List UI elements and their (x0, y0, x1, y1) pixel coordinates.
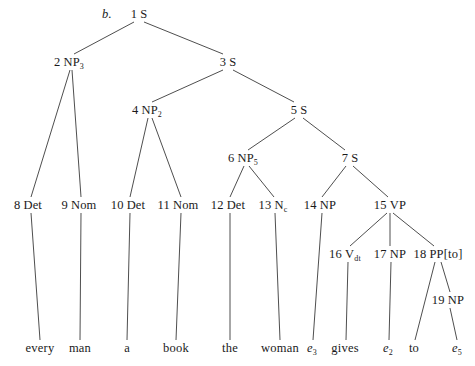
node-index: 11 (157, 198, 172, 212)
tree-terminal-man: man (69, 342, 91, 355)
tree-edge-n5-n6 (248, 118, 295, 150)
tree-edge-n7-n15 (353, 166, 388, 197)
node-subscript: 5 (254, 158, 258, 167)
tree-edge-n18-n19 (441, 262, 450, 292)
node-category: NP3 (63, 55, 84, 69)
node-subscript: c (284, 205, 288, 214)
tree-node-10-det: 10Det (111, 199, 146, 212)
node-category: Vdt (345, 247, 361, 261)
tree-edge-n1-n3 (144, 22, 223, 54)
tree-node-15-vp: 15VP (374, 199, 406, 212)
node-category: VP (390, 198, 406, 212)
node-category: Det (127, 198, 146, 212)
tree-edge-n6-n13 (249, 166, 274, 197)
tree-edge-n1-n2 (74, 22, 134, 54)
tree-terminal-woman: woman (261, 342, 299, 355)
node-category: PP[to] (429, 247, 462, 261)
tree-edge-n4-n11 (152, 118, 181, 197)
item-marker-label: b. (102, 8, 112, 21)
tree-edge-n16-t8 (346, 262, 348, 340)
node-category: Nom (173, 198, 199, 212)
node-category: S (140, 7, 147, 21)
tree-node-1-s: 1S (131, 8, 148, 21)
node-index: 13 (259, 198, 275, 212)
tree-edge-n6-n12 (230, 166, 244, 197)
node-index: 16 (329, 247, 345, 261)
tree-edge-n17-t9 (389, 262, 391, 340)
tree-edge-n11-t4 (176, 213, 181, 340)
tree-edge-n7-n14 (322, 166, 346, 197)
tree-edge-n2-n8 (31, 70, 70, 197)
node-category: NP (320, 198, 336, 212)
tree-node-17-np: 17NP (374, 248, 406, 261)
node-index: 17 (374, 247, 390, 261)
tree-terminal-the: the (222, 342, 238, 355)
node-category: Det (227, 198, 246, 212)
tree-node-12-det: 12Det (211, 199, 246, 212)
node-index: 12 (211, 198, 227, 212)
tree-edge-n3-n4 (152, 70, 223, 102)
syntax-tree-figure: b. 1S2NP33S4NP25S6NP57S8Det9Nom10Det11No… (0, 0, 475, 366)
tree-terminal-to: to (409, 342, 419, 355)
tree-node-9-nom: 9Nom (61, 199, 96, 212)
tree-edge-n2-n9 (72, 70, 81, 197)
tree-node-14-np: 14NP (304, 199, 336, 212)
trace-index: 5 (458, 348, 462, 357)
node-subscript: dt (354, 254, 361, 263)
tree-terminal-trace-e5: e5 (452, 342, 462, 355)
tree-edge-n8-t1 (31, 213, 40, 340)
tree-edge-n14-t7 (313, 213, 322, 340)
tree-edge-n15-n18 (393, 213, 434, 246)
tree-node-6-np: 6NP5 (228, 152, 258, 165)
tree-node-18-ppto: 18PP[to] (413, 248, 462, 261)
tree-edge-n10-t3 (127, 213, 130, 340)
trace-index: 2 (389, 348, 393, 357)
node-category: S (229, 55, 236, 69)
tree-node-4-np: 4NP2 (132, 104, 162, 117)
tree-edge-n15-n16 (350, 213, 387, 246)
node-category: Nom (71, 198, 97, 212)
tree-terminal-a: a (124, 342, 130, 355)
tree-terminal-book: book (163, 342, 189, 355)
tree-terminal-every: every (26, 342, 55, 355)
node-category: NP (448, 293, 464, 307)
tree-node-3-s: 3S (220, 56, 237, 69)
tree-terminal-trace-e3: e3 (307, 342, 317, 355)
tree-node-7-s: 7S (342, 152, 359, 165)
node-index: 14 (304, 198, 320, 212)
node-subscript: 2 (158, 110, 162, 119)
node-category: Det (23, 198, 42, 212)
tree-node-8-det: 8Det (14, 199, 42, 212)
node-index: 10 (111, 198, 127, 212)
tree-node-11-nom: 11Nom (157, 199, 198, 212)
tree-node-16-v: 16Vdt (329, 248, 361, 261)
tree-terminal-gives: gives (331, 342, 358, 355)
trace-symbol: e5 (452, 341, 462, 355)
trace-symbol: e2 (383, 341, 393, 355)
node-index: 19 (432, 293, 448, 307)
trace-symbol: e3 (307, 341, 317, 355)
tree-node-13-n: 13Nc (259, 199, 288, 212)
trace-index: 3 (313, 348, 317, 357)
tree-node-19-np: 19NP (432, 294, 464, 307)
tree-edge-n13-t6 (275, 213, 280, 340)
node-category: S (300, 103, 307, 117)
node-subscript: 3 (80, 62, 84, 71)
node-category: Nc (274, 198, 287, 212)
node-category: NP (390, 247, 406, 261)
tree-node-2-np: 2NP3 (54, 56, 84, 69)
node-category: S (351, 151, 358, 165)
tree-edge-n3-n5 (233, 70, 294, 102)
tree-edge-n19-t11 (450, 308, 457, 340)
node-index: 15 (374, 198, 390, 212)
node-category: NP2 (141, 103, 162, 117)
tree-node-5-s: 5S (291, 104, 308, 117)
node-category: NP5 (237, 151, 258, 165)
tree-edge-n4-n10 (130, 118, 148, 197)
tree-edge-n5-n7 (303, 118, 345, 150)
tree-terminal-trace-e2: e2 (383, 342, 393, 355)
node-index: 18 (413, 247, 429, 261)
tree-edge-n9-t2 (80, 213, 81, 340)
